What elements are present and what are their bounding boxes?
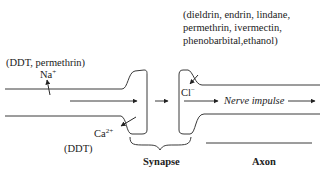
- chloride-ion-charge: −: [191, 86, 195, 94]
- chloride-ion-label: Cl−: [181, 87, 195, 99]
- nerve-impulse-label: Nerve impulse: [224, 95, 284, 107]
- sodium-channel-agents-label: (DDT, permethrin): [6, 57, 85, 69]
- calcium-ion-label: Ca2+: [94, 128, 113, 140]
- chloride-channel-agents-line3: phenobarbital,ethanol): [183, 35, 278, 47]
- chloride-influx-arrow: [190, 75, 198, 84]
- axon-label: Axon: [252, 156, 276, 168]
- calcium-channel-agents-label: (DDT): [64, 143, 93, 155]
- chloride-ion-symbol: Cl: [181, 87, 191, 98]
- calcium-ion-charge: 2+: [106, 127, 113, 135]
- sodium-influx-arrow: [47, 80, 50, 95]
- chloride-channel-agents-line2: permethrin, ivermectin,: [183, 22, 282, 34]
- chloride-channel-agents-line1: (dieldrin, endrin, lindane,: [183, 9, 290, 21]
- calcium-ion-symbol: Ca: [94, 128, 106, 139]
- sodium-ion-label: Na+: [40, 69, 56, 81]
- presynaptic-neuron: [5, 70, 147, 134]
- synapse-label: Synapse: [143, 156, 180, 168]
- synapse-brace: [130, 137, 191, 150]
- sodium-ion-symbol: Na: [40, 69, 52, 80]
- sodium-ion-charge: +: [52, 68, 56, 76]
